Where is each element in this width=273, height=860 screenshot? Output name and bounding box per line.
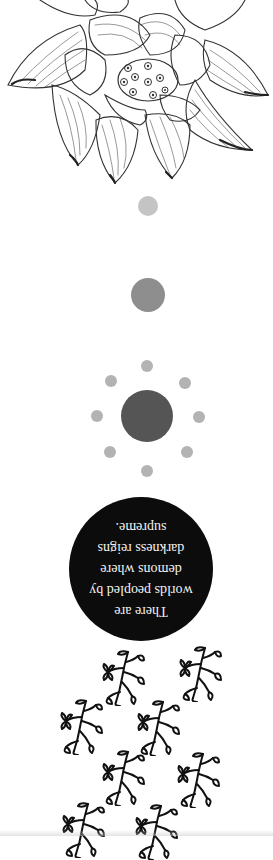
quote-text: There are worlds peopled by demons where… (81, 517, 201, 622)
leaf-sprig-icon (58, 697, 104, 755)
quote-line: darkness reigns (81, 538, 201, 559)
orbit-dot (105, 375, 117, 387)
quote-line: worlds peopled by (81, 580, 201, 601)
leaf-sprig-icon (60, 800, 106, 858)
lotus-flower-icon (0, 0, 273, 200)
quote-line: supreme. (81, 517, 201, 538)
orbit-dot (179, 377, 191, 389)
orbit-dot (91, 410, 103, 422)
orbit-dot (193, 411, 205, 423)
leaf-sprig-icon (175, 750, 221, 808)
bottom-edge-shadow (0, 830, 273, 836)
large-moon-circle (121, 390, 173, 442)
orbit-dot (141, 360, 153, 372)
medium-moon-circle (131, 278, 165, 312)
orbit-dot (104, 446, 116, 458)
quote-line: There are (81, 601, 201, 622)
quote-disc: There are worlds peopled by demons where… (69, 497, 213, 641)
quote-line: demons where (81, 559, 201, 580)
small-moon-circle (138, 196, 158, 216)
leaf-sprig-icon (100, 748, 146, 806)
orbit-dot (141, 465, 153, 477)
orbit-dot (181, 446, 193, 458)
leaf-sprig-icon (177, 644, 223, 702)
